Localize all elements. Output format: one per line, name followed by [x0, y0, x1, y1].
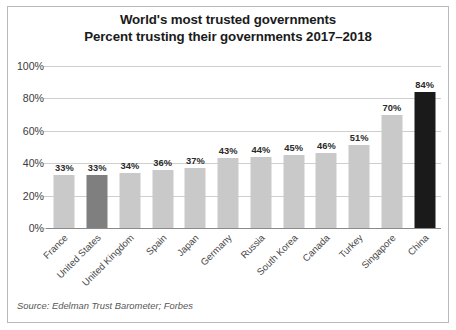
bar-group[interactable]: 37% — [179, 66, 212, 228]
bar-value-label: 34% — [121, 161, 140, 171]
y-tick-label: 100% — [6, 60, 44, 72]
bar[interactable] — [54, 175, 75, 228]
x-tick: Germany — [212, 230, 245, 292]
bar-group[interactable]: 33% — [81, 66, 114, 228]
bar-group[interactable]: 33% — [48, 66, 81, 228]
bar-value-label: 46% — [317, 141, 336, 151]
x-tick: Spain — [146, 230, 179, 292]
bar[interactable] — [218, 158, 239, 228]
bar-value-label: 70% — [383, 103, 402, 113]
source-note: Source: Edelman Trust Barometer; Forbes — [17, 300, 193, 311]
x-tick: China — [408, 230, 441, 292]
x-tick-label-text: Spain — [143, 232, 168, 257]
bar-group[interactable]: 43% — [212, 66, 245, 228]
bar-group[interactable]: 70% — [376, 66, 409, 228]
y-tick-label: 60% — [6, 125, 44, 137]
bar-value-label: 33% — [88, 163, 107, 173]
x-tick: United Kingdom — [114, 230, 147, 292]
bar-value-label: 43% — [219, 146, 238, 156]
y-tick-label: 40% — [6, 157, 44, 169]
bar-value-label: 84% — [415, 80, 434, 90]
bar[interactable] — [87, 175, 108, 228]
bar-group[interactable]: 45% — [277, 66, 310, 228]
bar[interactable] — [185, 168, 206, 228]
bar-value-label: 37% — [186, 156, 205, 166]
y-tick-label: 80% — [6, 92, 44, 104]
chart-figure: World's most trusted governments Percent… — [0, 0, 456, 330]
x-tick: Canada — [310, 230, 343, 292]
bar-group[interactable]: 51% — [343, 66, 376, 228]
bar-group[interactable]: 44% — [245, 66, 278, 228]
plot-area: 33%33%34%36%37%43%44%45%46%51%70%84% — [48, 66, 441, 228]
y-tick-label: 0% — [6, 222, 44, 234]
bar-value-label: 36% — [153, 158, 172, 168]
bar[interactable] — [381, 115, 402, 228]
x-axis-labels: FranceUnited StatesUnited KingdomSpainJa… — [48, 230, 441, 292]
bar-value-label: 51% — [350, 133, 369, 143]
bar-value-label: 45% — [284, 143, 303, 153]
bar-value-label: 33% — [55, 163, 74, 173]
bar-group[interactable]: 84% — [408, 66, 441, 228]
y-tick-label: 20% — [6, 190, 44, 202]
x-tick: Singapore — [376, 230, 409, 292]
bar-value-label: 44% — [252, 145, 271, 155]
x-tick-label-text: China — [405, 232, 431, 258]
x-tick-label-text: Japan — [175, 232, 201, 258]
